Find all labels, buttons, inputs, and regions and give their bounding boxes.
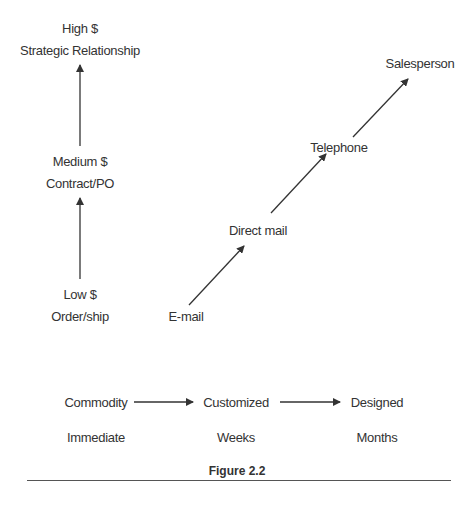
- channel-email: E-mail: [168, 309, 203, 325]
- arrow-directmail-to-telephone: [271, 154, 326, 213]
- channel-direct-mail: Direct mail: [229, 223, 287, 239]
- channel-salesperson: Salesperson: [386, 56, 455, 72]
- product-commodity: Commodity: [64, 395, 127, 411]
- timeframe-months: Months: [357, 430, 398, 446]
- level-medium-type: Contract/PO: [46, 176, 114, 192]
- product-designed: Designed: [351, 395, 404, 411]
- level-medium-value: Medium $: [53, 154, 108, 170]
- level-high-value: High $: [62, 21, 98, 37]
- product-customized: Customized: [203, 395, 269, 411]
- timeframe-weeks: Weeks: [217, 430, 255, 446]
- level-low-value: Low $: [63, 287, 96, 303]
- arrow-telephone-to-salesperson: [353, 79, 408, 137]
- arrow-email-to-directmail: [189, 246, 244, 305]
- timeframe-immediate: Immediate: [67, 430, 125, 446]
- level-high-type: Strategic Relationship: [20, 43, 140, 59]
- figure-caption: Figure 2.2: [209, 464, 266, 478]
- channel-telephone: Telephone: [310, 140, 367, 156]
- level-low-type: Order/ship: [51, 309, 109, 325]
- caption-rule: [27, 480, 451, 481]
